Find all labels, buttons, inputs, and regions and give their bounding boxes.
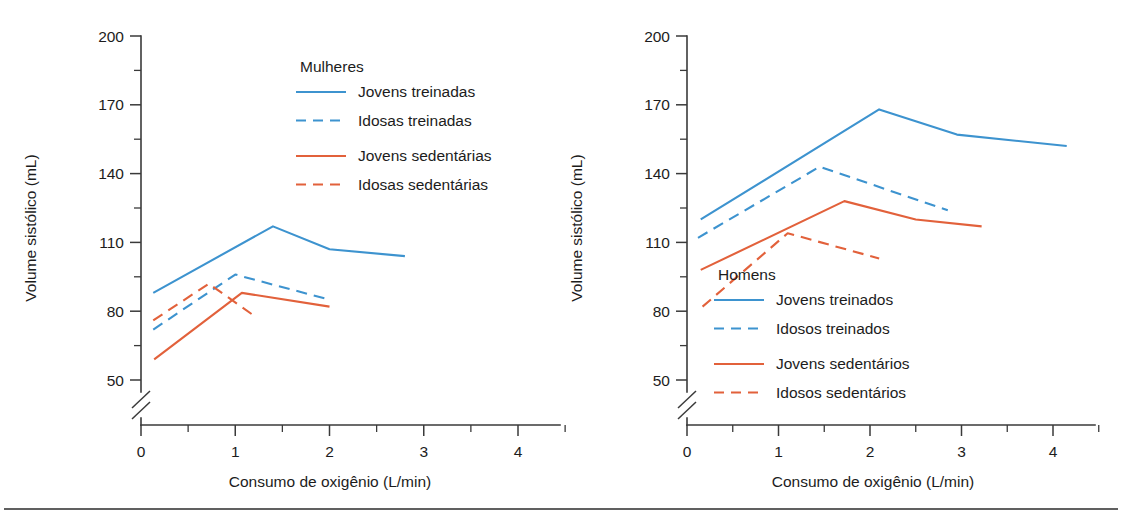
series-line-women-3 — [153, 284, 254, 321]
y-tick-label: 50 — [107, 372, 125, 389]
legend-label-men-1: Idosos treinados — [776, 320, 890, 337]
series-line-women-2 — [154, 293, 329, 360]
x-tick-label: 3 — [957, 443, 966, 460]
x-axis-title: Consumo de oxigênio (L/min) — [772, 473, 974, 490]
legend-label-women-1: Idosas treinadas — [358, 112, 472, 129]
panel-men: 508011014017020001234Volume sistólico (m… — [568, 28, 1099, 491]
legend-women: MulheresJovens treinadasIdosas treinadas… — [296, 58, 492, 193]
x-tick-label: 2 — [325, 443, 334, 460]
x-tick-label: 1 — [774, 443, 783, 460]
series-line-women-0 — [153, 226, 405, 293]
legend-label-women-3: Idosas sedentárias — [358, 176, 488, 193]
y-tick-label: 80 — [107, 303, 125, 320]
legend-label-women-0: Jovens treinadas — [358, 83, 475, 100]
y-axis-title: Volume sistólico (mL) — [568, 154, 585, 301]
y-tick-label: 200 — [644, 28, 670, 45]
x-tick-label: 2 — [866, 443, 875, 460]
y-tick-label: 50 — [653, 372, 671, 389]
y-axis-title: Volume sistólico (mL) — [22, 154, 39, 301]
x-tick-label: 1 — [231, 443, 240, 460]
x-tick-label: 0 — [683, 443, 692, 460]
legend-label-women-2: Jovens sedentárias — [358, 147, 492, 164]
y-tick-label: 80 — [653, 303, 671, 320]
legend-title: Homens — [718, 266, 776, 283]
legend-label-men-0: Jovens treinados — [776, 291, 893, 308]
y-tick-label: 200 — [98, 28, 124, 45]
y-tick-label: 170 — [644, 96, 670, 113]
y-tick-label: 110 — [99, 234, 124, 251]
panel-women: 508011014017020001234Volume sistólico (m… — [22, 28, 565, 491]
chart-svg: 508011014017020001234Volume sistólico (m… — [0, 0, 1122, 516]
x-tick-label: 4 — [514, 443, 523, 460]
x-tick-label: 0 — [137, 443, 146, 460]
y-tick-label: 110 — [645, 234, 670, 251]
y-tick-label: 140 — [644, 165, 670, 182]
figure-root: 508011014017020001234Volume sistólico (m… — [0, 0, 1122, 516]
series-line-men-2 — [701, 201, 982, 270]
legend-men: HomensJovens treinadosIdosos treinadosJo… — [714, 266, 910, 401]
x-tick-label: 4 — [1049, 443, 1058, 460]
legend-label-men-3: Idosos sedentários — [776, 384, 906, 401]
x-tick-label: 3 — [419, 443, 428, 460]
y-tick-label: 170 — [98, 96, 124, 113]
legend-label-men-2: Jovens sedentários — [776, 355, 910, 372]
x-axis-title: Consumo de oxigênio (L/min) — [229, 473, 431, 490]
series-line-men-0 — [701, 109, 1067, 219]
series-line-men-1 — [698, 167, 948, 238]
legend-title: Mulheres — [300, 58, 364, 75]
y-tick-label: 140 — [98, 165, 124, 182]
